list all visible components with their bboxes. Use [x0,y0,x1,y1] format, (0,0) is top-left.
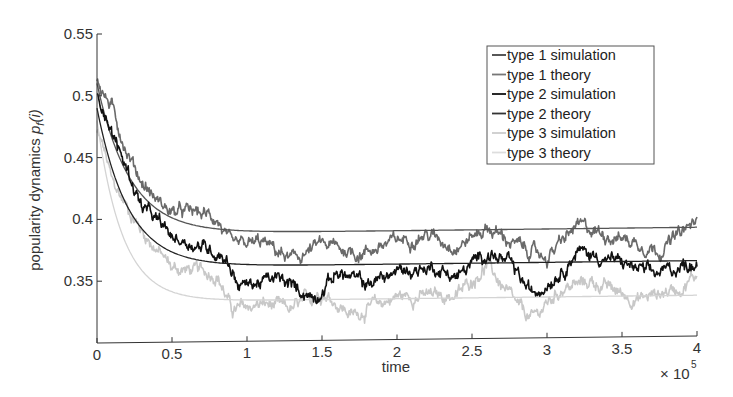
svg-text:× 10: × 10 [660,365,690,382]
x-tick-label: 4 [693,339,701,356]
x-tick-label: 1.5 [312,343,333,360]
y-tick-label: 0.5 [72,87,93,104]
y-ticks: 0.350.40.450.50.55 [64,25,102,289]
x-tick-label: 1 [243,344,251,361]
legend-label: type 2 simulation [507,86,616,102]
legend-label: type 1 simulation [507,47,616,63]
x-tick-label: 2.5 [462,342,483,359]
popularity-dynamics-chart: 0.350.40.450.50.55 00.511.522.533.54 tim… [0,0,733,397]
y-tick-label: 0.4 [72,210,93,227]
x-tick-label: 0 [93,346,101,363]
x-tick-label: 0.5 [162,345,183,362]
legend-label: type 1 theory [507,67,592,83]
y-tick-label: 0.35 [64,272,93,289]
y-tick-label: 0.55 [64,25,93,42]
y-axis-title: popularity dynamics pf(i) [26,109,46,270]
x-axis-title: time [382,358,410,375]
legend-label: type 2 theory [507,106,592,122]
x-tick-label: 3 [543,341,551,358]
legend: type 1 simulationtype 1 theorytype 2 sim… [487,46,654,164]
legend-label: type 3 simulation [507,125,616,141]
x-multiplier: × 10 5 [660,359,697,382]
svg-text:5: 5 [691,359,697,370]
y-tick-label: 0.45 [64,149,93,166]
x-tick-label: 2 [393,343,401,360]
x-tick-label: 3.5 [612,340,633,357]
legend-label: type 3 theory [507,145,592,161]
